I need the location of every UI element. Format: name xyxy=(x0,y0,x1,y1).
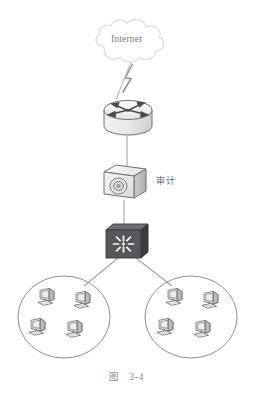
lan-group-left xyxy=(18,276,110,358)
cloud-label: Internet xyxy=(0,34,253,44)
audit-label: 审计 xyxy=(156,174,176,187)
lan-host-right-2 xyxy=(202,291,218,308)
switch-icon xyxy=(106,224,148,258)
topology-canvas xyxy=(0,0,253,397)
figure-caption: 图3-4 xyxy=(0,369,253,383)
network-topology-figure: · ··· ···· · ·· · Internet 审计 图3-4 xyxy=(0,0,253,397)
router-icon xyxy=(104,101,152,136)
lan-host-right-1 xyxy=(166,288,182,305)
lan-host-left-3 xyxy=(29,318,45,335)
lan-ellipse-icon-right xyxy=(145,276,237,358)
lan-host-left-1 xyxy=(38,288,54,305)
figure-caption-number: 3-4 xyxy=(129,372,144,382)
link-switch-lan-left xyxy=(84,258,118,286)
audit-appliance-icon xyxy=(104,165,146,198)
lan-group-right xyxy=(145,276,237,358)
scan-artifact-strip: · ··· ···· · ·· · xyxy=(26,0,226,5)
lan-ellipse-icon-left xyxy=(18,276,110,358)
link-cloud-router-strand xyxy=(116,62,131,100)
figure-caption-prefix: 图 xyxy=(109,372,120,382)
lan-host-left-2 xyxy=(74,291,90,308)
lan-host-left-4 xyxy=(66,320,82,337)
lan-host-right-3 xyxy=(157,318,173,335)
lan-host-right-4 xyxy=(194,320,210,337)
